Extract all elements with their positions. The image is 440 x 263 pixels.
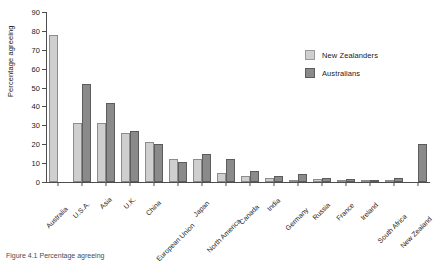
- bar: [202, 154, 211, 182]
- y-tick-label: 50: [31, 83, 40, 92]
- bar-groups: [46, 12, 430, 182]
- bar: [250, 171, 259, 182]
- bar: [394, 178, 403, 182]
- bar: [130, 131, 139, 182]
- x-label-cell: China: [142, 186, 166, 248]
- figure-caption: Figure 4.1 Percentage agreeing: [6, 252, 104, 259]
- bar: [178, 162, 187, 182]
- y-axis-title: Percentage agreeing: [6, 25, 15, 97]
- bar: [217, 173, 226, 182]
- x-axis-label-text: India: [266, 197, 282, 213]
- x-axis-label-text: Russia: [311, 201, 331, 221]
- bar: [298, 174, 307, 182]
- x-axis-label-text: Japan: [192, 199, 210, 217]
- y-tick-label: 0: [36, 178, 40, 187]
- bar: [346, 179, 355, 182]
- x-axis-label-text: U.S.A.: [72, 200, 91, 219]
- x-label-cell: U.K.: [118, 186, 142, 248]
- x-axis-label-text: Canada: [238, 203, 260, 225]
- x-label-cell: U.S.A.: [70, 186, 94, 248]
- x-axis-label-text: Ireland: [359, 201, 379, 221]
- x-label-cell: South Africa: [382, 186, 406, 248]
- x-axis-labels: AustraliaU.S.A.AsiaU.K.ChinaEuropean Uni…: [46, 186, 430, 248]
- bar: [193, 159, 202, 182]
- x-label-cell: Russia: [310, 186, 334, 248]
- x-axis-label-text: China: [144, 199, 162, 217]
- bar-group: [142, 12, 166, 182]
- bar-group: [190, 12, 214, 182]
- bar: [169, 159, 178, 182]
- y-tick-label: 10: [31, 159, 40, 168]
- y-tick-label: 80: [31, 26, 40, 35]
- legend-label: Australians: [322, 69, 360, 78]
- bar-group: [262, 12, 286, 182]
- x-axis-label-text: Asia: [98, 196, 113, 211]
- bar: [73, 123, 82, 182]
- bar: [274, 176, 283, 182]
- x-label-cell: Germany: [286, 186, 310, 248]
- bar-group: [94, 12, 118, 182]
- bar: [370, 180, 379, 182]
- x-label-cell: India: [262, 186, 286, 248]
- bar-group: [286, 12, 310, 182]
- bar: [49, 35, 58, 182]
- x-label-cell: Australia: [46, 186, 70, 248]
- bar-group: [70, 12, 94, 182]
- x-label-cell: North America: [214, 186, 238, 248]
- bar-group: [238, 12, 262, 182]
- bar: [154, 144, 163, 182]
- bar: [226, 159, 235, 182]
- legend-item: Australians: [305, 68, 378, 78]
- legend-swatch-au: [305, 68, 315, 78]
- y-tick-label: 70: [31, 45, 40, 54]
- bar-group: [382, 12, 406, 182]
- bar: [82, 84, 91, 182]
- x-label-cell: Asia: [94, 186, 118, 248]
- bar-group: [118, 12, 142, 182]
- x-axis-label-text: Germany: [284, 206, 309, 231]
- bar-group: [46, 12, 70, 182]
- x-label-cell: New Zealand: [406, 186, 430, 248]
- x-axis-line: [46, 182, 430, 183]
- bar-group: [358, 12, 382, 182]
- legend-item: New Zealanders: [305, 50, 378, 60]
- bar: [145, 142, 154, 182]
- x-axis-label-text: U.K.: [122, 196, 137, 211]
- bar: [106, 103, 115, 182]
- y-tick-mark: [42, 182, 46, 183]
- legend-label: New Zealanders: [322, 51, 378, 60]
- y-tick-label: 60: [31, 64, 40, 73]
- x-label-cell: Japan: [190, 186, 214, 248]
- bar-group: [310, 12, 334, 182]
- y-tick-label: 30: [31, 121, 40, 130]
- legend-swatch-nz: [305, 50, 315, 60]
- y-tick-label: 90: [31, 8, 40, 17]
- y-tick-label: 40: [31, 102, 40, 111]
- x-label-cell: Canada: [238, 186, 262, 248]
- bar: [418, 144, 427, 182]
- bar: [97, 123, 106, 182]
- chart-legend: New ZealandersAustralians: [305, 50, 378, 86]
- y-tick-label: 20: [31, 140, 40, 149]
- x-label-cell: France: [334, 186, 358, 248]
- x-axis-label-text: France: [335, 201, 355, 221]
- bar-group: [406, 12, 430, 182]
- bar: [121, 133, 130, 182]
- bar-group: [214, 12, 238, 182]
- x-label-cell: European Union: [166, 186, 190, 248]
- bar-group: [334, 12, 358, 182]
- plot-area: 0102030405060708090 New ZealandersAustra…: [46, 12, 430, 182]
- x-axis-label-text: Australia: [45, 205, 69, 229]
- bar: [322, 178, 331, 182]
- bar-group: [166, 12, 190, 182]
